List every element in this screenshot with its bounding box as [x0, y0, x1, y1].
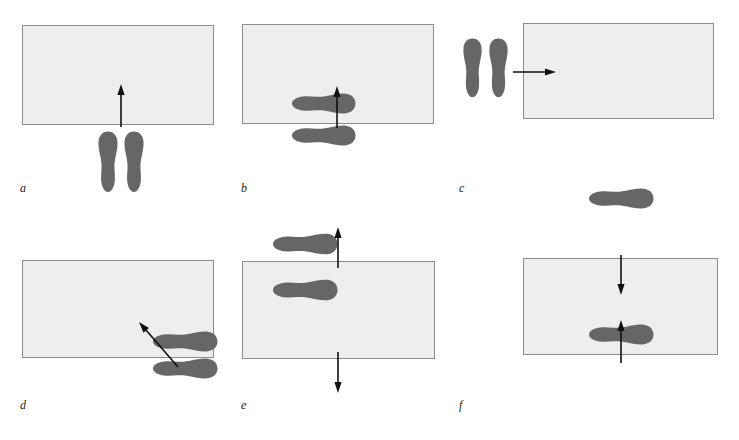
arrow-e-exit-down — [324, 338, 352, 407]
arrow-b-approach — [323, 72, 351, 142]
panel-label-d: d — [20, 399, 26, 411]
direction-arrow-icon — [499, 58, 570, 86]
direction-arrow-icon — [324, 338, 352, 407]
arrow-f-approach-up — [607, 306, 635, 377]
arrow-f-approach-down — [607, 241, 635, 309]
direction-arrow-icon — [125, 308, 192, 381]
direction-arrow-icon — [107, 70, 135, 141]
arrow-d-approach — [125, 308, 192, 381]
shoe-sole-icon — [461, 38, 484, 98]
figure-canvas: a b c d e f — [0, 0, 739, 440]
panel-label-f: f — [459, 399, 462, 411]
footprint-d-lower — [193, 356, 218, 422]
direction-arrow-icon — [607, 306, 635, 377]
panel-label-c: c — [459, 182, 464, 194]
direction-arrow-icon — [607, 241, 635, 309]
panel-label-b: b — [241, 182, 247, 194]
shoe-sole-icon — [588, 186, 654, 211]
footprint-c-left — [461, 38, 484, 98]
arrow-c-approach — [499, 58, 570, 86]
arrow-a-approach — [107, 70, 135, 141]
direction-arrow-icon — [323, 72, 351, 142]
panel-label-a: a — [20, 182, 26, 194]
direction-arrow-icon — [324, 213, 352, 282]
footprint-e-lower — [312, 277, 338, 343]
arrow-e-exit-up — [324, 213, 352, 282]
panel-label-e: e — [241, 399, 246, 411]
